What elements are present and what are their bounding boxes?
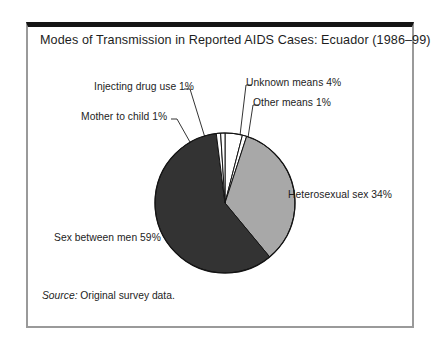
source-text: Original survey data. (78, 290, 175, 301)
pie-label-heterosexual-sex: Heterosexual sex 34% (288, 189, 392, 200)
source-note: Source: Original survey data. (42, 290, 175, 301)
page-title: Modes of Transmission in Reported AIDS C… (40, 33, 410, 47)
pie-label-sex-between-men: Sex between men 59% (54, 232, 161, 243)
pie-label-injecting-drug-use: Injecting drug use 1% (94, 81, 194, 92)
pie-slices (155, 133, 295, 273)
pie-label-mother-to-child: Mother to child 1% (81, 111, 167, 122)
source-keyword: Source: (42, 290, 78, 301)
pie-label-unknown-means: Unknown means 4% (246, 77, 341, 88)
pie-label-other-means: Other means 1% (253, 97, 331, 108)
